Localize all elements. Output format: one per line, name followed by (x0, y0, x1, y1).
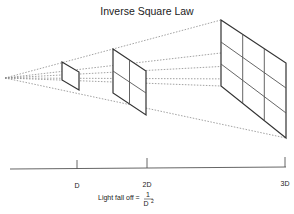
svg-text:D: D (143, 200, 148, 207)
svg-text:Light fall off =: Light fall off = (98, 194, 140, 202)
tick-label-3d: 3D (281, 180, 290, 187)
svg-text:1: 1 (146, 191, 150, 198)
inverse-square-diagram: Inverse Square Law D 2D 3D Light fall (0, 0, 294, 214)
tick-label-d: D (74, 182, 79, 189)
diagram-title: Inverse Square Law (100, 5, 194, 17)
area-at-2d (113, 49, 146, 115)
tick-label-2d: 2D (143, 181, 152, 188)
area-at-3d (221, 20, 286, 138)
distance-axis (10, 157, 286, 169)
area-at-d (62, 62, 79, 90)
formula: Light fall off = 1 D 2 (98, 191, 154, 207)
svg-text:2: 2 (151, 198, 154, 204)
